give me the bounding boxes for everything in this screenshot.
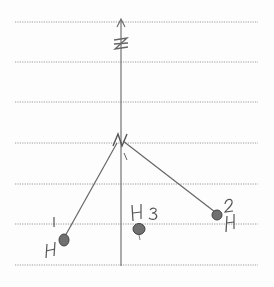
nitrogen-atom-label: [113, 134, 127, 146]
diagram-svg: [0, 0, 274, 287]
bond-h2: [123, 141, 215, 212]
atom-h1: [46, 217, 69, 258]
bond-h3: [124, 153, 127, 160]
atom-h3: [132, 204, 157, 235]
molecule-sketch: [0, 0, 274, 287]
atom-h2: [212, 199, 234, 232]
